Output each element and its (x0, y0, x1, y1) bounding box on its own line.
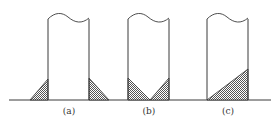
panel-b (128, 13, 169, 100)
panel-a (30, 13, 109, 100)
fillet-inner-right (150, 78, 169, 100)
wavy-top (48, 13, 89, 22)
fillet-left (30, 79, 48, 100)
wavy-top (207, 13, 248, 22)
fillet-right (89, 78, 109, 100)
label-a: (a) (63, 106, 75, 116)
fill-triangle (207, 69, 248, 100)
wavy-top (128, 13, 169, 22)
label-b: (b) (143, 106, 156, 116)
label-c: (c) (222, 106, 234, 116)
fillet-inner-left (128, 78, 150, 100)
panel-c (207, 13, 248, 100)
